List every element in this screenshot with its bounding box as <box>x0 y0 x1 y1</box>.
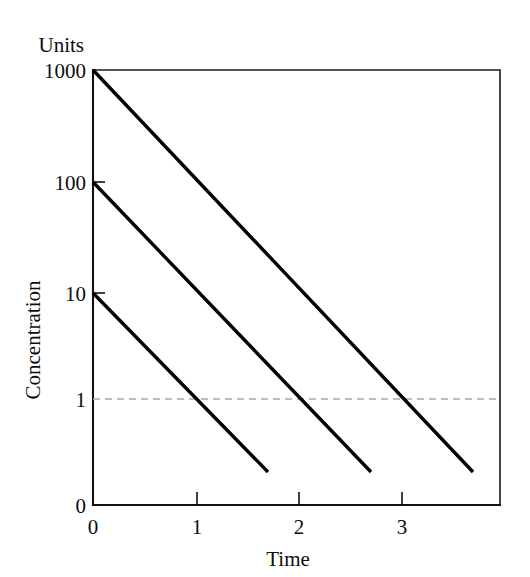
x-tick-label-1: 1 <box>192 515 203 539</box>
semilog-decay-chart: Units 1000 100 10 1 0 0 1 2 3 Time Conce… <box>0 0 530 577</box>
y-tick-label-0: 0 <box>76 494 87 518</box>
y-tick-label-10: 10 <box>65 282 86 306</box>
chart-figure: Units 1000 100 10 1 0 0 1 2 3 Time Conce… <box>0 0 530 577</box>
y-axis-units-label: Units <box>38 33 84 57</box>
y-tick-label-1: 1 <box>76 388 87 412</box>
y-tick-label-1000: 1000 <box>44 59 86 83</box>
x-tick-label-3: 3 <box>397 515 408 539</box>
y-axis-title: Concentration <box>21 280 45 399</box>
x-tick-label-0: 0 <box>88 515 99 539</box>
y-tick-label-100: 100 <box>55 171 87 195</box>
x-axis-title: Time <box>266 547 310 571</box>
x-tick-label-2: 2 <box>294 515 305 539</box>
